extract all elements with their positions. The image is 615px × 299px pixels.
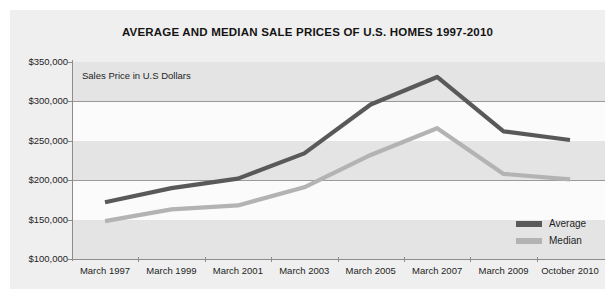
- legend-item-average: Average: [516, 215, 602, 232]
- legend-label-median: Median: [549, 235, 582, 246]
- legend-item-median: Median: [516, 232, 602, 249]
- legend-label-average: Average: [549, 218, 586, 229]
- series-line-median: [105, 128, 570, 221]
- series-line-average: [105, 77, 570, 202]
- legend-swatch-median: [516, 238, 542, 244]
- chart-panel: AVERAGE AND MEDIAN SALE PRICES OF U.S. H…: [10, 10, 605, 289]
- chart-legend: Average Median: [516, 215, 602, 249]
- legend-swatch-average: [516, 221, 542, 227]
